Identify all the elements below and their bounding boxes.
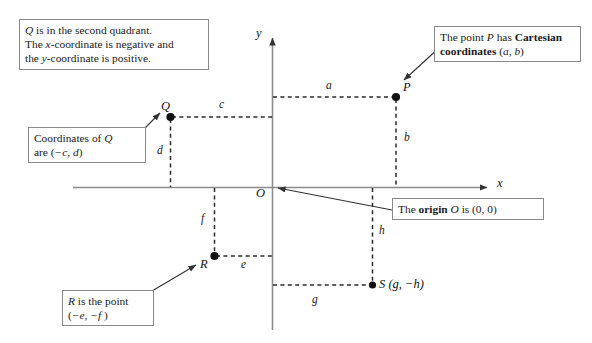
callout-text: Coordinates of — [34, 132, 104, 144]
callout-text: Cartesian — [515, 31, 562, 43]
segment-label-a: a — [326, 79, 332, 91]
callout-text: ) — [520, 45, 524, 57]
callout-text: is in the second quadrant. — [33, 24, 152, 36]
callout-line: The point P has Cartesian — [440, 30, 575, 44]
callout-line: the y-coordinate is positive. — [25, 51, 203, 65]
point-S — [369, 281, 376, 288]
point-P — [392, 93, 400, 101]
callout-text: are ( — [34, 146, 55, 158]
callout-p-cartesian: The point P has Cartesian coordinates (a… — [434, 26, 581, 62]
callout-text: The — [25, 38, 46, 50]
segment-label-e: e — [241, 258, 246, 270]
callout-text: Q — [25, 24, 33, 36]
callout-text: -coordinate is positive. — [47, 52, 151, 64]
callout-text: ) — [101, 309, 108, 321]
point-label-S: S (g, −h) — [379, 277, 424, 292]
x-axis-label: x — [497, 176, 503, 191]
callout-text: ) — [79, 146, 83, 158]
callout-line: Q is in the second quadrant. — [25, 23, 203, 37]
callout-origin: The origin O is (0, 0) — [392, 198, 544, 220]
callout-line: coordinates (a, b) — [440, 44, 575, 58]
callout-text: The — [398, 203, 419, 215]
segment-label-f: f — [201, 212, 204, 224]
point-Q — [166, 113, 174, 121]
leader-line-origin — [278, 188, 392, 210]
callout-text: ( — [496, 45, 503, 57]
point-label-Q: Q — [161, 99, 170, 114]
callout-line: R is the point — [68, 294, 148, 308]
callout-q-coordinates: Coordinates of Q are (−c, d) — [28, 127, 146, 163]
segment-label-b: b — [404, 131, 410, 143]
callout-text: P — [487, 31, 494, 43]
callout-text: −e, −f — [72, 309, 101, 321]
coordinate-diagram: y x O P Q R S (g, −h) a b c d e f g h Q … — [0, 0, 592, 343]
callout-text: R — [68, 295, 75, 307]
origin-label: O — [256, 186, 265, 201]
callout-line: The x-coordinate is negative and — [25, 37, 203, 51]
callout-text: the — [25, 52, 42, 64]
segment-label-c: c — [219, 98, 224, 110]
callout-line: (−e, −f ) — [68, 308, 148, 322]
callout-text: The point — [440, 31, 487, 43]
callout-text: Q — [104, 132, 112, 144]
callout-text: O — [451, 203, 459, 215]
y-axis-label: y — [256, 26, 262, 41]
callout-text: origin — [419, 203, 448, 215]
leader-line-r-point — [152, 265, 196, 291]
segment-label-d: d — [157, 144, 163, 156]
point-label-P: P — [403, 80, 411, 95]
callout-second-quadrant: Q is in the second quadrant. The x-coord… — [19, 19, 209, 70]
callout-r-point: R is the point (−e, −f ) — [62, 290, 154, 326]
callout-text: is (0, 0) — [459, 203, 497, 215]
callout-text: -coordinate is negative and — [51, 38, 174, 50]
point-R — [210, 252, 218, 260]
point-label-R: R — [200, 257, 208, 272]
segment-label-h: h — [379, 224, 385, 236]
callout-line: Coordinates of Q — [34, 131, 140, 145]
callout-text: a, b — [503, 45, 520, 57]
callout-text: −c, d — [55, 146, 79, 158]
segment-label-g: g — [312, 293, 318, 305]
callout-text: coordinates — [440, 45, 496, 57]
callout-line: The origin O is (0, 0) — [398, 202, 538, 216]
callout-text: is the point — [75, 295, 128, 307]
callout-line: are (−c, d) — [34, 145, 140, 159]
callout-text: has — [494, 31, 515, 43]
